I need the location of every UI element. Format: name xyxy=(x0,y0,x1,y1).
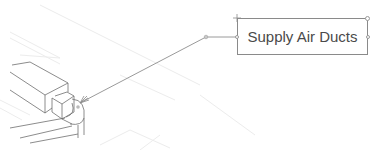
duct-geometry[interactable] xyxy=(10,62,84,143)
grip-circle-icon[interactable] xyxy=(366,35,370,39)
leader-line[interactable] xyxy=(80,37,237,103)
grip-circle-icon[interactable] xyxy=(235,35,239,39)
elbow-grip-icon[interactable] xyxy=(204,35,208,39)
annotation-label-text: Supply Air Ducts xyxy=(247,28,357,45)
annotation-label-box[interactable]: Supply Air Ducts xyxy=(237,18,368,55)
background-geometry xyxy=(0,5,255,150)
arrow-grip-icon[interactable] xyxy=(76,105,80,109)
grip-circle-icon[interactable] xyxy=(365,16,370,21)
